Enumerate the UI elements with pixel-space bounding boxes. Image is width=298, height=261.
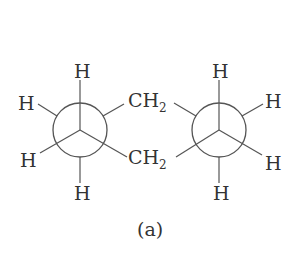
left-back-bond-upper-left bbox=[38, 104, 57, 116]
left-h-bottom: H bbox=[74, 182, 91, 204]
left-front-bond-lower-left bbox=[40, 130, 80, 153]
right-h-bottom: H bbox=[213, 182, 230, 204]
right-h-upper-right: H bbox=[265, 90, 282, 112]
right-back-bond-upper-left bbox=[174, 103, 196, 116]
left-h-lower-left: H bbox=[20, 149, 37, 171]
right-h-top: H bbox=[212, 60, 229, 82]
left-front-bond-lower-right bbox=[80, 130, 127, 157]
right-newman-projection: H H H H bbox=[174, 60, 282, 204]
right-back-bond-upper-right bbox=[242, 104, 263, 116]
ch2-bridge: CH2 CH2 bbox=[128, 89, 167, 172]
figure-caption: (a) bbox=[137, 218, 163, 240]
left-h-top: H bbox=[74, 60, 91, 82]
lower-ch2-label: CH2 bbox=[128, 146, 167, 172]
bicyclic-newman-projection-diagram: H H H H CH2 CH2 H H H H (a) bbox=[0, 0, 298, 261]
right-h-lower-right: H bbox=[265, 152, 282, 174]
right-front-bond-lower-left bbox=[176, 130, 219, 157]
left-back-bond-upper-right bbox=[103, 104, 124, 116]
right-front-bond-lower-right bbox=[219, 130, 262, 155]
upper-ch2-label: CH2 bbox=[128, 89, 167, 115]
left-newman-projection: H H H H bbox=[18, 60, 127, 204]
left-h-upper-left: H bbox=[18, 92, 35, 114]
